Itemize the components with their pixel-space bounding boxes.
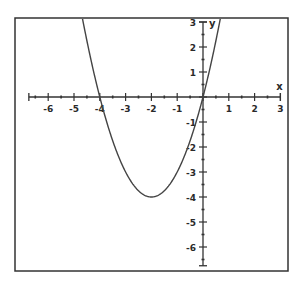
chart-frame [15,18,288,271]
y-tick-label: -3 [186,168,196,178]
x-tick-label: 3 [277,104,283,114]
y-tick-label: -6 [186,243,196,253]
axis-ticks [35,22,280,260]
tick-labels: -6-5-4-3-2-1123321-1-2-3-4-5-6 [43,18,283,253]
y-tick-label: 2 [190,43,196,53]
y-tick-label: -5 [186,218,196,228]
x-axis-label: x [276,81,283,92]
x-tick-label: -5 [69,104,79,114]
y-tick-label: 1 [190,68,196,78]
y-tick-label: -4 [186,193,196,203]
x-tick-label: -2 [146,104,156,114]
x-tick-label: -3 [121,104,131,114]
y-tick-label: 3 [190,18,196,28]
parabola-chart: -6-5-4-3-2-1123321-1-2-3-4-5-6 x y [0,0,293,281]
x-tick-label: 1 [226,104,232,114]
x-tick-label: -1 [172,104,182,114]
y-axis-label: y [209,18,216,29]
x-tick-label: 2 [251,104,257,114]
axes [29,22,281,266]
x-tick-label: -6 [43,104,53,114]
